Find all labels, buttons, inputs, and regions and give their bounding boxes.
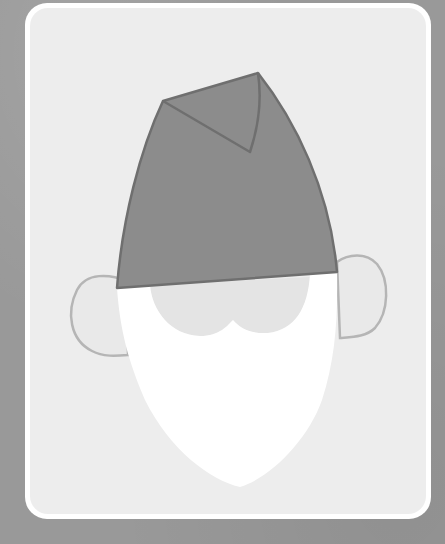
- right-ear: [337, 256, 386, 339]
- hat: [117, 73, 337, 288]
- gnome-illustration: [0, 0, 445, 544]
